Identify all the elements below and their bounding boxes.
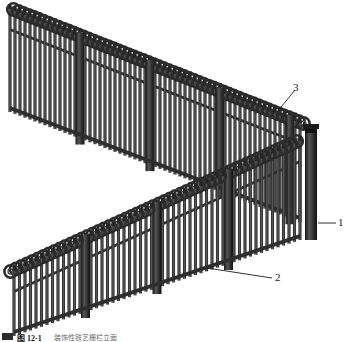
corner-post	[303, 124, 319, 240]
figure-caption-text: 装饰性铁艺栅栏立面	[54, 332, 117, 342]
figure-marker-icon	[2, 333, 13, 340]
callout-label-2: 2	[275, 272, 281, 283]
figure-root: 1 2 3 图 12-1 装饰性铁艺栅栏立面	[0, 0, 352, 342]
figure-caption: 图 12-1 装饰性铁艺栅栏立面	[2, 332, 117, 342]
callout-label-1: 1	[338, 217, 344, 228]
figure-number: 图 12-1	[17, 332, 42, 342]
fence-illustration	[0, 0, 352, 342]
callout-label-3: 3	[293, 82, 299, 93]
